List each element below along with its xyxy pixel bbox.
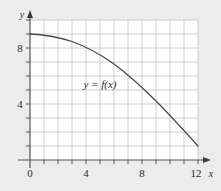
x-axis-label: x: [208, 168, 214, 179]
function-graph-figure: 8 4 0 4 8 12 y x y = f(x): [0, 0, 221, 191]
y-axis-arrowhead: [27, 10, 33, 18]
x-tick-label-8: 8: [139, 167, 145, 179]
graph-svg: 8 4 0 4 8 12 y x y = f(x): [0, 0, 221, 191]
x-axis-ticks: [44, 160, 198, 164]
y-tick-label-8: 8: [17, 42, 23, 54]
x-axis-arrowhead: [203, 157, 211, 163]
x-tick-label-4: 4: [83, 167, 89, 179]
curve-equation-label: y = f(x): [82, 78, 116, 91]
x-tick-label-12: 12: [191, 167, 202, 179]
y-axis-label: y: [19, 9, 25, 20]
y-tick-label-4: 4: [17, 98, 23, 110]
x-tick-label-0: 0: [27, 167, 33, 179]
